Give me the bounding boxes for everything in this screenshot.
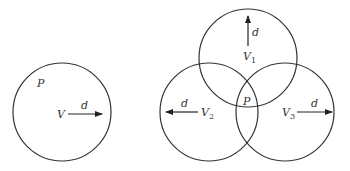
radius-label-d1: d <box>252 26 259 39</box>
radius-label-d3: d <box>311 97 318 110</box>
three-circle-group: d V1 d V2 V3 d P <box>160 9 334 161</box>
intersection-label-p: P <box>242 95 251 108</box>
vertex-label-v3: V3 <box>282 106 295 121</box>
vertex-label-v1: V1 <box>243 50 256 65</box>
vertex-label-v: V <box>57 108 66 121</box>
point-label-p: P <box>36 77 45 90</box>
radius-label-d2: d <box>181 97 188 110</box>
vertex-label-v2: V2 <box>201 106 214 121</box>
trilateration-diagram: P V d d V1 d V2 V3 d P <box>0 0 350 171</box>
single-circle-group: P V d <box>13 63 111 161</box>
radius-label-d: d <box>81 99 88 112</box>
